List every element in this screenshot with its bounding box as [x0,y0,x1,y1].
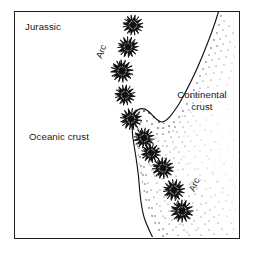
volcano-symbol [159,175,189,205]
label-oceanic-crust: Oceanic crust [29,131,89,142]
map-drawing [15,12,238,237]
label-continental-crust-line1: Continental [177,89,227,100]
label-continental-crust: Continental crust [166,89,238,112]
label-continental-crust-line2: crust [191,101,212,112]
volcano-symbol [106,55,139,88]
label-jurassic: Jurassic [25,21,61,32]
volcano-symbol [113,83,137,107]
volcano-symbol [114,33,142,61]
volcano-symbol [121,13,146,38]
volcano-symbol-group [106,13,197,226]
volcano-symbol [118,106,145,133]
figure-container: Jurassic Oceanic crust Continental crust… [0,0,253,256]
map-frame: Jurassic Oceanic crust Continental crust… [14,11,240,239]
volcano-symbol [149,154,177,182]
